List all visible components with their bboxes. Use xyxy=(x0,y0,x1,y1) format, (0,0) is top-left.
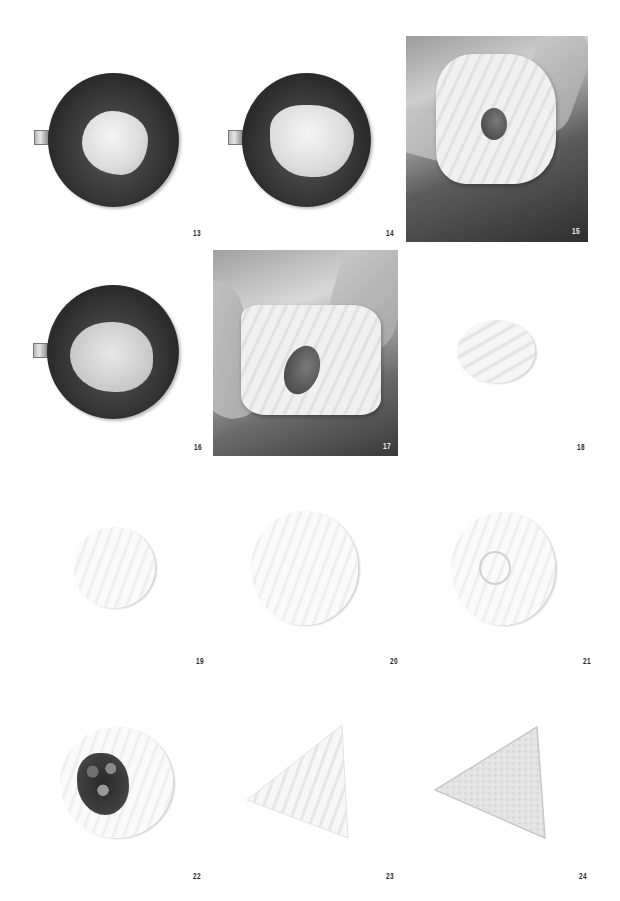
step-15-photo: 15 xyxy=(406,36,588,242)
step-number: 15 xyxy=(572,227,580,236)
bowl-handle-icon xyxy=(34,130,49,145)
step-number: 18 xyxy=(577,443,585,452)
dough-ball xyxy=(457,320,535,383)
step-number: 20 xyxy=(390,657,398,666)
step-number: 19 xyxy=(196,657,204,666)
step-number: 21 xyxy=(583,657,591,666)
step-number: 13 xyxy=(193,229,201,238)
dough-lump xyxy=(270,105,354,177)
dough-disc xyxy=(251,511,358,625)
floured-pastry-triangle xyxy=(428,720,553,845)
dough-hole xyxy=(481,108,507,140)
step-number: 24 xyxy=(579,872,587,881)
step-number: 23 xyxy=(386,872,394,881)
dough-disc xyxy=(73,527,155,608)
dough-ball xyxy=(70,322,153,392)
step-number: 14 xyxy=(386,229,394,238)
step-number: 16 xyxy=(194,443,202,452)
step-number: 17 xyxy=(383,442,391,451)
step-number: 22 xyxy=(193,872,201,881)
bowl-handle-icon xyxy=(228,130,243,145)
step-17-photo: 17 xyxy=(213,250,398,456)
bowl-handle-icon xyxy=(33,343,48,358)
center-indent-ring xyxy=(479,551,511,585)
dough-triangle xyxy=(240,720,355,845)
